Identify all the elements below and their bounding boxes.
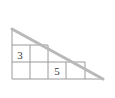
triangle-grid-diagram: 3 5 (0, 0, 115, 98)
label-5: 5 (54, 65, 60, 77)
label-3: 3 (17, 49, 23, 61)
geometry-figure: 3 5 (0, 0, 115, 98)
